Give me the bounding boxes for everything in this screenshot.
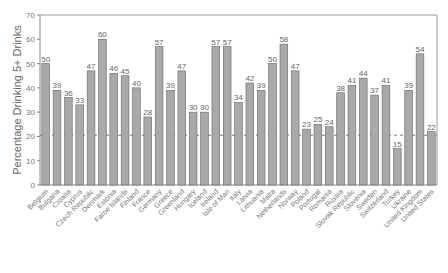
y-tick-label: 20 xyxy=(26,132,35,141)
bar-value-label: 47 xyxy=(87,62,96,71)
bar xyxy=(99,39,107,185)
bar-chart: 010203040506070 503936334760464540285739… xyxy=(0,0,448,273)
bar xyxy=(65,98,73,185)
bar xyxy=(393,149,401,185)
y-tick-label: 50 xyxy=(26,60,35,69)
bar xyxy=(121,76,129,185)
bar-value-label: 34 xyxy=(234,93,243,102)
bar xyxy=(291,71,299,185)
bar xyxy=(348,85,356,185)
bar-value-label: 30 xyxy=(200,103,209,112)
bar-value-label: 57 xyxy=(211,38,220,47)
bar xyxy=(201,112,209,185)
x-axis-labels: BelgiumBulgariaCroatiaCyprusCzech Republ… xyxy=(25,187,436,230)
bar xyxy=(269,64,277,185)
bar xyxy=(325,127,333,185)
bar-value-label: 42 xyxy=(245,74,254,83)
bar-value-label: 38 xyxy=(336,84,345,93)
bar-value-label: 45 xyxy=(121,67,130,76)
bar xyxy=(167,90,175,185)
bar-value-label: 47 xyxy=(291,62,300,71)
bars xyxy=(42,39,435,185)
bar xyxy=(314,124,322,185)
bar-value-label: 54 xyxy=(416,45,425,54)
bar-value-label: 46 xyxy=(109,64,118,73)
bar-value-label: 57 xyxy=(223,38,232,47)
bar xyxy=(416,54,424,185)
bar-value-label: 22 xyxy=(427,123,436,132)
bar xyxy=(246,83,254,185)
bar xyxy=(235,102,243,185)
bar-value-label: 57 xyxy=(155,38,164,47)
bar-value-label: 41 xyxy=(347,76,356,85)
bar-value-label: 25 xyxy=(313,115,322,124)
bar-value-label: 33 xyxy=(75,96,84,105)
bar-value-label: 28 xyxy=(143,108,152,117)
bar xyxy=(427,132,435,185)
bar xyxy=(382,85,390,185)
bar-value-label: 37 xyxy=(370,86,379,95)
y-axis-label: Percentage Drinking 5+ Drinks xyxy=(11,25,23,175)
bar xyxy=(110,73,118,185)
bar xyxy=(303,129,311,185)
bar xyxy=(337,93,345,185)
bar-value-label: 39 xyxy=(53,81,62,90)
bar-value-label: 39 xyxy=(257,81,266,90)
bar-value-label: 15 xyxy=(393,140,402,149)
bar xyxy=(371,95,379,185)
bar xyxy=(178,71,186,185)
bar xyxy=(53,90,61,185)
y-tick-label: 60 xyxy=(26,35,35,44)
bar xyxy=(212,47,220,185)
bar-value-label: 39 xyxy=(166,81,175,90)
bar xyxy=(133,88,141,185)
bar-value-label: 41 xyxy=(382,76,391,85)
bar xyxy=(223,47,231,185)
bar xyxy=(405,90,413,185)
y-tick-label: 70 xyxy=(26,11,35,20)
bar-value-label: 39 xyxy=(404,81,413,90)
bar-value-label: 58 xyxy=(279,35,288,44)
y-tick-label: 10 xyxy=(26,157,35,166)
bar-value-label: 44 xyxy=(359,69,368,78)
y-tick-label: 0 xyxy=(31,181,36,190)
bar-value-label: 47 xyxy=(177,62,186,71)
bar xyxy=(359,78,367,185)
bar xyxy=(280,44,288,185)
bar xyxy=(76,105,84,185)
bar-value-label: 23 xyxy=(302,120,311,129)
bar xyxy=(189,112,197,185)
bar-value-label: 60 xyxy=(98,30,107,39)
bar-value-label: 50 xyxy=(41,55,50,64)
bar-value-label: 36 xyxy=(64,89,73,98)
bar-value-label: 30 xyxy=(189,103,198,112)
y-tick-label: 30 xyxy=(26,108,35,117)
bar xyxy=(144,117,152,185)
bar xyxy=(42,64,50,185)
bar-value-label: 40 xyxy=(132,79,141,88)
bar xyxy=(155,47,163,185)
bar-value-label: 24 xyxy=(325,118,334,127)
bar xyxy=(87,71,95,185)
y-tick-label: 40 xyxy=(26,84,35,93)
bar xyxy=(257,90,265,185)
bar-value-label: 50 xyxy=(268,55,277,64)
